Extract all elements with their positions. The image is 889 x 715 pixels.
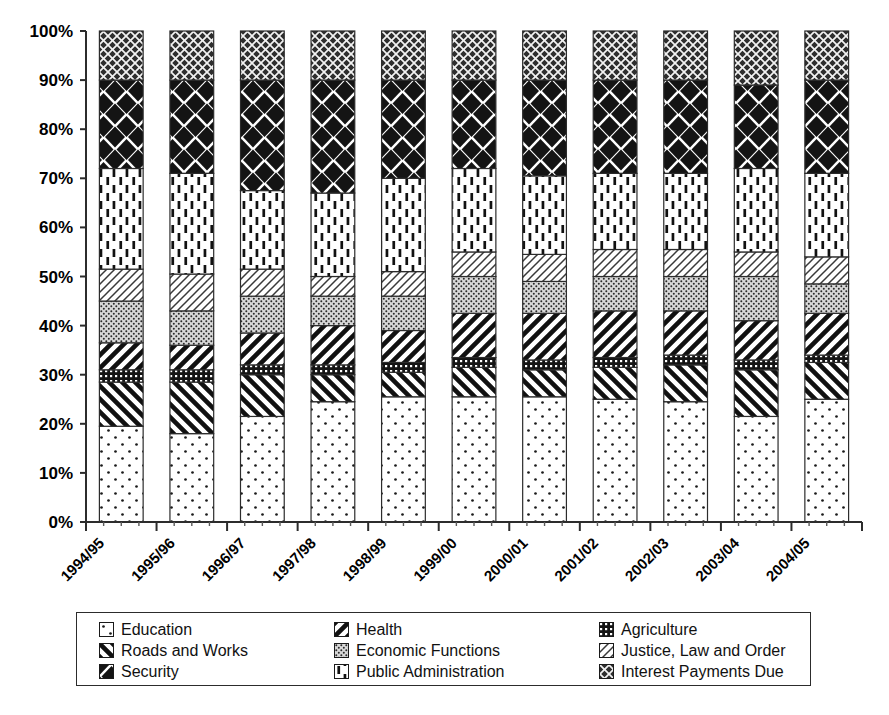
legend-item[interactable]: Public Administration <box>334 661 599 682</box>
chart-legend: EducationHealthAgricultureRoads and Work… <box>76 612 811 686</box>
bar-segment <box>382 178 426 271</box>
bar-segment <box>805 284 849 313</box>
legend-swatch-icon <box>334 622 349 637</box>
bar-segment <box>593 249 637 276</box>
legend-swatch-icon <box>599 622 614 637</box>
bar-segment <box>734 168 778 251</box>
bar-segment <box>170 173 214 274</box>
legend-swatch-icon <box>599 664 614 679</box>
bar-segment <box>452 31 496 80</box>
x-axis-tick-label: 2001/02 <box>551 534 601 584</box>
bar-segment <box>593 80 637 173</box>
x-axis-ticks <box>86 522 862 531</box>
legend-item[interactable]: Roads and Works <box>99 640 334 661</box>
bar-segment <box>734 321 778 360</box>
legend-item-label: Health <box>356 621 402 639</box>
legend-item[interactable]: Justice, Law and Order <box>599 640 810 661</box>
bar-segment <box>664 173 708 249</box>
bar-segment <box>593 358 637 368</box>
bar-column <box>664 31 708 522</box>
bar-segment <box>170 311 214 345</box>
y-axis-tick-label: 20% <box>39 415 73 434</box>
bar-segment <box>99 343 143 370</box>
bar-segment <box>170 434 214 522</box>
bar-segment <box>311 402 355 522</box>
bar-segment <box>523 360 567 370</box>
bar-segment <box>664 365 708 402</box>
x-axis-tick-label: 2004/05 <box>762 534 812 584</box>
bar-segment <box>311 80 355 193</box>
bar-segment <box>99 80 143 168</box>
bar-column <box>170 31 214 522</box>
bar-segment <box>593 277 637 311</box>
bar-segment <box>382 272 426 297</box>
bar-segment <box>523 31 567 80</box>
x-axis-tick-label: 1996/97 <box>198 534 248 584</box>
bar-segment <box>523 397 567 522</box>
bar-segment <box>593 173 637 249</box>
bar-segment <box>805 399 849 522</box>
bar-column <box>311 31 355 522</box>
bar-segment <box>452 168 496 251</box>
bar-segment <box>170 80 214 173</box>
bar-segment <box>382 397 426 522</box>
legend-item[interactable]: Interest Payments Due <box>599 661 810 682</box>
bar-column <box>523 31 567 522</box>
bar-segment <box>240 31 284 80</box>
y-axis-labels: 0%10%20%30%40%50%60%70%80%90%100% <box>30 22 73 532</box>
bar-segment <box>734 85 778 168</box>
y-axis-tick-label: 70% <box>39 169 73 188</box>
bar-segment <box>382 362 426 372</box>
bar-segment <box>311 296 355 325</box>
legend-item[interactable]: Health <box>334 619 599 640</box>
chart-plot-area: 0%10%20%30%40%50%60%70%80%90%100% 1994/9… <box>0 0 889 600</box>
x-axis-tick-label: 2000/01 <box>480 534 530 584</box>
bar-segment <box>734 277 778 321</box>
bar-segment <box>452 252 496 277</box>
bar-column <box>240 31 284 522</box>
legend-item-label: Justice, Law and Order <box>621 642 786 660</box>
x-axis-tick-label: 1997/98 <box>269 534 319 584</box>
y-axis-tick-label: 30% <box>39 366 73 385</box>
legend-item[interactable]: Economic Functions <box>334 640 599 661</box>
bar-segment <box>452 277 496 314</box>
bar-segment <box>99 382 143 426</box>
bar-segment <box>523 281 567 313</box>
bar-segment <box>452 358 496 368</box>
y-axis-tick-label: 50% <box>39 268 73 287</box>
bar-segment <box>805 355 849 362</box>
bar-segment <box>311 31 355 80</box>
bar-segment <box>452 367 496 396</box>
legend-item[interactable]: Education <box>99 619 334 640</box>
legend-item[interactable]: Security <box>99 661 334 682</box>
bar-segment <box>240 375 284 417</box>
bar-segment <box>170 345 214 370</box>
x-axis-tick-label: 1994/95 <box>57 534 107 584</box>
bar-segment <box>311 193 355 276</box>
bar-segment <box>805 257 849 284</box>
bar-segment <box>805 313 849 355</box>
legend-item-label: Agriculture <box>621 621 697 639</box>
bar-segment <box>523 80 567 176</box>
legend-swatch-icon <box>99 643 114 658</box>
y-axis-tick-label: 60% <box>39 218 73 237</box>
bar-segment <box>170 382 214 434</box>
bar-segment <box>734 360 778 370</box>
bar-segment <box>452 313 496 357</box>
bar-segment <box>593 367 637 399</box>
bar-segment <box>382 31 426 80</box>
legend-item[interactable]: Agriculture <box>599 619 810 640</box>
legend-item-label: Education <box>121 621 192 639</box>
bar-segment <box>382 80 426 178</box>
y-axis-tick-label: 90% <box>39 71 73 90</box>
x-axis-tick-label: 2002/03 <box>621 534 671 584</box>
y-axis-tick-label: 100% <box>30 22 73 41</box>
legend-item-label: Public Administration <box>356 663 505 681</box>
x-axis-labels: 1994/951995/961996/971997/981998/991999/… <box>57 534 813 585</box>
bar-segment <box>523 254 567 281</box>
bar-segment <box>240 269 284 296</box>
legend-item-label: Interest Payments Due <box>621 663 784 681</box>
bar-segment <box>664 277 708 311</box>
bar-segment <box>734 370 778 417</box>
legend-swatch-icon <box>334 664 349 679</box>
